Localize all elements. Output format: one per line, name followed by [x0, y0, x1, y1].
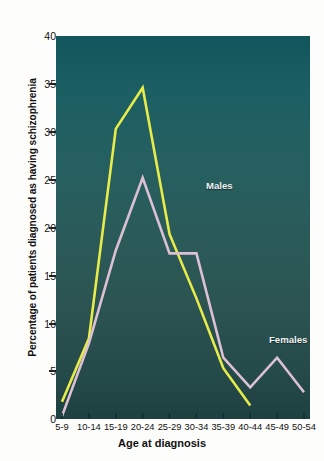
series-canvas	[56, 36, 310, 419]
x-axis-tick-labels: 5-910-1415-1920-2425-2930-3435-3940-4445…	[44, 422, 322, 436]
y-tick-label-40: 40	[32, 30, 56, 42]
y-tick-mark-35	[49, 83, 56, 85]
y-tick-mark-30	[49, 131, 56, 133]
plot-area: Males Females	[56, 36, 310, 419]
x-axis-title: Age at diagnosis	[0, 437, 324, 449]
series-line-males	[62, 88, 250, 406]
series-line-females	[62, 178, 304, 416]
y-tick-mark-20	[49, 227, 56, 229]
y-tick-mark-15	[49, 275, 56, 277]
y-tick-mark-25	[49, 179, 56, 181]
series-annotation-females: Females	[269, 334, 307, 345]
y-tick-mark-10	[49, 323, 56, 325]
y-tick-mark-5	[49, 370, 56, 372]
series-annotation-males: Males	[206, 180, 233, 191]
chart-figure: Percentage of patients diagnosed as havi…	[0, 0, 324, 461]
x-tick-label: 50-54	[286, 422, 322, 432]
